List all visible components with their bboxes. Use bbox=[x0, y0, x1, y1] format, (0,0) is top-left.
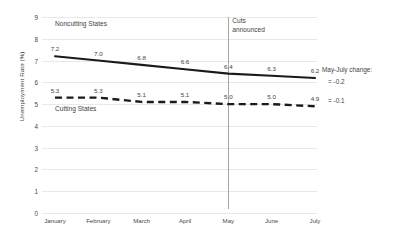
series-label-cutting: Cutting States bbox=[55, 105, 96, 112]
y-tick-label-5: 5 bbox=[34, 101, 38, 108]
unemployment-rate-line-chart: Unemployment Rate (%) 9 8 7 6 5 4 3 2 1 … bbox=[0, 0, 405, 247]
value-label-noncutting-june: 6.3 bbox=[267, 65, 276, 72]
annotation-cutting-value: = -0.1 bbox=[328, 97, 372, 104]
value-label-noncutting-april: 6.6 bbox=[181, 58, 190, 65]
value-label-cutting-february: 5.3 bbox=[94, 87, 103, 94]
value-label-noncutting-may: 6.4 bbox=[224, 63, 233, 70]
value-label-noncutting-january: 7.2 bbox=[51, 45, 60, 52]
value-label-noncutting-march: 6.8 bbox=[137, 54, 146, 61]
annotation-noncutting-value: = -0.2 bbox=[328, 78, 372, 85]
x-tick-label-march: March bbox=[133, 217, 150, 224]
x-tick-label-july: July bbox=[310, 217, 321, 224]
y-tick-label-4: 4 bbox=[34, 122, 38, 129]
y-tick-label-3: 3 bbox=[34, 144, 38, 151]
value-label-cutting-march: 5.1 bbox=[137, 91, 146, 98]
y-axis-title: Unemployment Rate (%) bbox=[18, 22, 25, 152]
y-tick-label-1: 1 bbox=[34, 188, 38, 195]
y-tick-label-2: 2 bbox=[34, 166, 38, 173]
value-label-noncutting-july: 6.2 bbox=[311, 67, 320, 74]
annotation-title: May-July change: bbox=[322, 66, 372, 73]
value-label-noncutting-february: 7.0 bbox=[94, 50, 103, 57]
plot-area: 9 8 7 6 5 4 3 2 1 0 Cuts announced Noncu… bbox=[42, 17, 317, 213]
series-label-noncutting: Noncutting States bbox=[55, 20, 107, 27]
value-label-cutting-may: 5.0 bbox=[224, 93, 233, 100]
y-tick-label-8: 8 bbox=[34, 35, 38, 42]
value-label-cutting-july: 4.9 bbox=[311, 95, 320, 102]
x-tick-label-june: June bbox=[265, 217, 278, 224]
series-lines bbox=[42, 17, 317, 213]
value-label-cutting-june: 5.0 bbox=[267, 93, 276, 100]
x-tick-label-february: February bbox=[86, 217, 110, 224]
value-label-cutting-april: 5.1 bbox=[181, 91, 190, 98]
x-tick-label-april: April bbox=[179, 217, 191, 224]
x-tick-label-january: January bbox=[44, 217, 66, 224]
x-tick-label-may: May bbox=[223, 217, 235, 224]
gridline-0: 0 bbox=[42, 213, 317, 214]
value-label-cutting-january: 5.3 bbox=[51, 87, 60, 94]
may-july-change-annotation: May-July change: = -0.2 = -0.1 bbox=[322, 66, 372, 104]
y-tick-label-7: 7 bbox=[34, 57, 38, 64]
y-tick-label-0: 0 bbox=[34, 210, 38, 217]
y-tick-label-9: 9 bbox=[34, 14, 38, 21]
y-tick-label-6: 6 bbox=[34, 79, 38, 86]
